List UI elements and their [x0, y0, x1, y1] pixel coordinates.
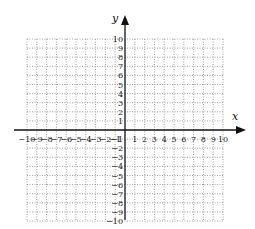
y-tick-label: 10: [113, 35, 123, 44]
x-tick-label: 5: [171, 135, 176, 144]
y-tick-label: 2: [118, 108, 123, 117]
y-tick-label: 3: [118, 99, 123, 108]
y-tick-label: 1: [118, 117, 123, 126]
y-tick-label: 5: [118, 81, 123, 90]
y-tick-label: −1: [111, 135, 123, 144]
x-tick-label: 6: [181, 135, 186, 144]
x-tick-label: 7: [191, 135, 196, 144]
y-tick-label: 8: [118, 53, 123, 62]
x-tick-label: 1: [132, 135, 137, 144]
x-tick-label: 8: [201, 135, 206, 144]
y-tick-label: 4: [118, 90, 123, 99]
y-tick-label: −2: [111, 144, 123, 153]
y-tick-label: −3: [111, 153, 123, 162]
coordinate-plane: −10−9−8−7−6−5−4−3−2−112345678910−10−9−8−…: [0, 0, 255, 229]
y-tick-label: −5: [111, 172, 123, 181]
y-tick-label: 9: [118, 44, 123, 53]
y-tick-label: −9: [111, 208, 123, 217]
y-tick-label: 6: [118, 71, 123, 80]
y-tick-label: −6: [111, 181, 123, 190]
x-tick-label: 3: [152, 135, 157, 144]
axes: [14, 15, 246, 220]
x-tick-label: 2: [142, 135, 147, 144]
y-tick-label: −10: [106, 217, 123, 226]
y-axis-arrow-icon: [121, 15, 129, 25]
y-tick-label: 7: [118, 62, 123, 71]
x-tick-label: 9: [211, 135, 216, 144]
y-tick-label: −8: [111, 199, 123, 208]
x-tick-label: 10: [218, 135, 228, 144]
y-tick-label: −7: [111, 190, 123, 199]
y-axis-label: y: [111, 12, 119, 25]
x-axis-label: x: [232, 110, 239, 123]
x-tick-label: 4: [162, 135, 167, 144]
x-axis-arrow-icon: [236, 126, 246, 134]
y-tick-label: −4: [111, 162, 123, 171]
